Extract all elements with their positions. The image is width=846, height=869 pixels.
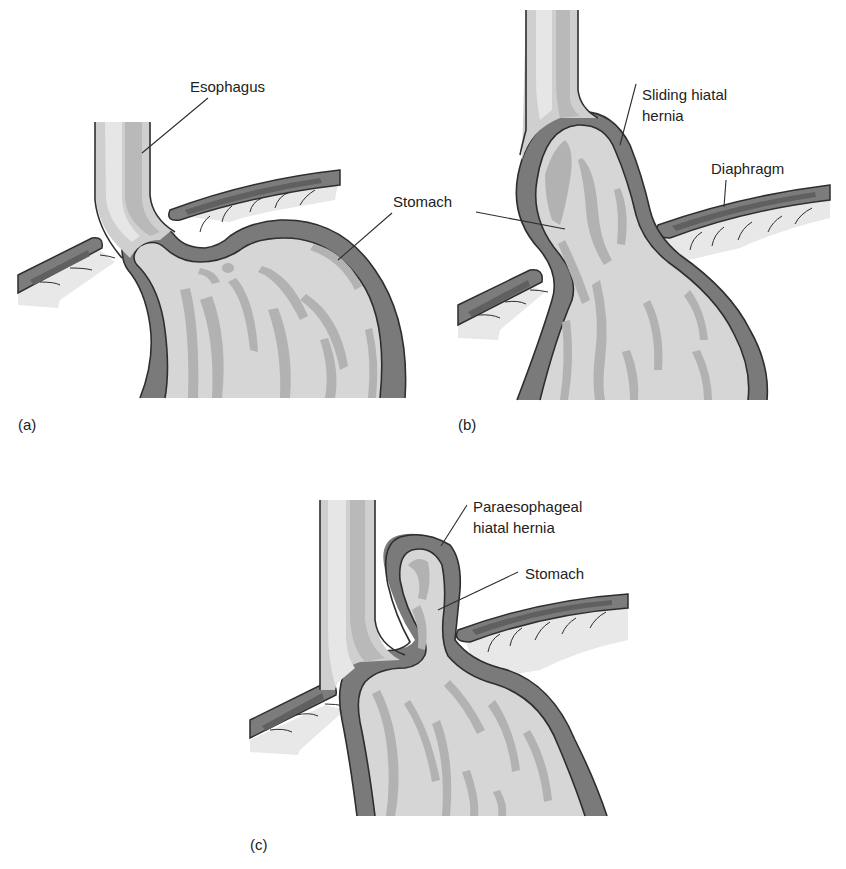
label-esophagus: Esophagus	[190, 78, 265, 95]
label-paraesophageal-1: Paraesophageal	[473, 498, 582, 515]
label-paraesophageal-2: hiatal hernia	[473, 519, 555, 536]
panel-label-c: (c)	[250, 836, 268, 853]
panel-a: Esophagus Stomach (a)	[18, 78, 452, 433]
label-stomach-c: Stomach	[525, 565, 584, 582]
leader-paraesophageal-hernia	[441, 505, 467, 546]
diaphragm-left-c	[250, 683, 345, 755]
diaphragm-right-a	[169, 170, 340, 232]
leader-sliding-hernia	[620, 84, 636, 145]
diaphragm-right-b	[657, 185, 831, 262]
panel-label-a: (a)	[18, 416, 36, 433]
hiatal-hernia-figure: Esophagus Stomach (a)	[0, 0, 846, 869]
label-sliding-hernia-1: Sliding hiatal	[642, 86, 727, 103]
leader-esophagus	[142, 98, 208, 153]
panel-c: Paraesophageal hiatal hernia Stomach (c)	[250, 498, 628, 853]
diaphragm-left-a	[18, 238, 115, 308]
stomach-b	[516, 112, 767, 400]
leader-stomach-a	[338, 213, 392, 260]
leader-diaphragm	[724, 180, 726, 207]
label-sliding-hernia-2: hernia	[642, 107, 684, 124]
stomach-a	[122, 220, 406, 398]
label-diaphragm: Diaphragm	[711, 160, 784, 177]
panel-label-b: (b)	[458, 416, 476, 433]
label-stomach-a: Stomach	[393, 193, 452, 210]
panel-b: Sliding hiatal hernia Diaphragm (b)	[458, 10, 830, 433]
diaphragm-left-b	[458, 270, 548, 340]
